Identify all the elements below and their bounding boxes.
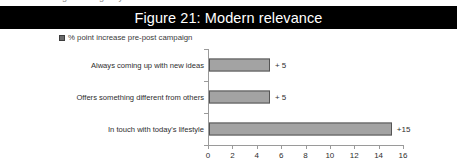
x-axis-tick-label: 14 (374, 151, 383, 160)
x-axis-tick-label: 10 (325, 151, 334, 160)
category-label: Offers something different from others (76, 93, 204, 102)
x-axis-tick (306, 145, 307, 149)
x-axis-tick-label: 2 (230, 151, 234, 160)
x-axis-tick (281, 145, 282, 149)
x-axis-tick-label: 4 (255, 151, 259, 160)
x-axis-tick (354, 145, 355, 149)
x-axis-tick (403, 145, 404, 149)
x-axis-tick (330, 145, 331, 149)
clipped-page-text-remnant: g r g y (62, 0, 129, 2)
page-title: Figure 21: Modern relevance (134, 10, 322, 26)
category-label: Always coming up with new ideas (91, 61, 204, 70)
bar-value-label: + 5 (275, 93, 286, 102)
figure-title-bar: Figure 21: Modern relevance (0, 6, 457, 29)
x-axis-tick-label: 6 (279, 151, 283, 160)
bar-row: Always coming up with new ideas + 5 (0, 49, 457, 81)
x-axis-tick (379, 145, 380, 149)
bar-chart: % point increase pre-post campaign Alway… (0, 29, 457, 165)
bar-segment[interactable] (209, 59, 270, 72)
category-label: In touch with today's lifestyle (108, 125, 204, 134)
x-axis-tick (208, 145, 209, 149)
legend-item-label: % point increase pre-post campaign (68, 33, 192, 42)
plot-area: Always coming up with new ideas + 5 Offe… (0, 49, 457, 145)
x-axis-tick (257, 145, 258, 149)
x-axis-tick-label: 12 (350, 151, 359, 160)
bar-segment[interactable] (209, 123, 392, 136)
bar-row: In touch with today's lifestyle +15 (0, 113, 457, 145)
bar-value-label: +15 (397, 125, 411, 134)
filled-square-marker-icon (59, 35, 65, 41)
bar-segment[interactable] (209, 91, 270, 104)
x-axis-tick-label: 16 (399, 151, 408, 160)
x-axis-tick-label: 8 (303, 151, 307, 160)
chart-legend: % point increase pre-post campaign (59, 33, 192, 42)
x-axis-tick-label: 0 (206, 151, 210, 160)
bar-row: Offers something different from others +… (0, 81, 457, 113)
x-axis: 0246810121416 (0, 145, 457, 165)
bar-value-label: + 5 (275, 61, 286, 70)
x-axis-tick (232, 145, 233, 149)
